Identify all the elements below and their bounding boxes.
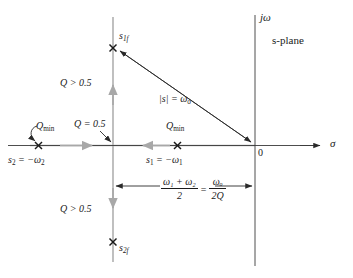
radius-magnitude-subscript: o	[187, 98, 191, 106]
radius-magnitude-label: |s| = ωo	[159, 94, 191, 106]
q-greater-upper-label: Q > 0.5	[60, 78, 91, 88]
half-bandwidth-equals: =	[201, 184, 207, 195]
s-plane-label: s-plane	[272, 35, 304, 46]
q-min-right-label: Qmin	[166, 121, 184, 133]
s-plane-root-locus-figure: s-plane jω σ 0 s1f s2f Q > 0.5 Q > 0.5 Q…	[0, 0, 353, 278]
half-bandwidth-fraction-right: ωₒ 2Q	[209, 176, 225, 201]
half-bandwidth-numerator-2: ωₒ	[209, 176, 225, 189]
pole-label-s2f-subscript: 2f	[123, 247, 129, 255]
origin-label: 0	[258, 148, 263, 158]
half-bandwidth-expression: ω₁ + ω₂ 2 = ωₒ 2Q	[161, 177, 226, 202]
pole-label-s1f-subscript: 1f	[123, 35, 129, 43]
half-bandwidth-denominator-2: 2Q	[209, 189, 225, 201]
real-axis-label: σ	[330, 138, 335, 149]
pole-label-s2: s2 = −ω2	[8, 155, 45, 167]
pole-label-s2-rest: = −ω	[16, 154, 42, 165]
half-bandwidth-numerator: ω₁ + ω₂	[161, 176, 198, 189]
q-greater-lower-label: Q > 0.5	[60, 204, 91, 214]
half-bandwidth-denominator: 2	[161, 189, 198, 201]
q-min-left-label: Qmin	[36, 121, 54, 133]
pole-label-s1: s1 = −ω1	[146, 155, 183, 167]
q-min-left-subscript: min	[43, 125, 54, 133]
q-equal-label: Q = 0.5	[74, 119, 105, 129]
pole-label-s2-rest-subscript: 2	[41, 159, 45, 167]
pole-label-s1-rest: = −ω	[154, 154, 180, 165]
imag-axis-label: jω	[260, 12, 271, 23]
pole-label-s2f: s2f	[119, 243, 129, 255]
half-bandwidth-fraction-left: ω₁ + ω₂ 2	[161, 176, 198, 201]
q-equal-leader-line	[100, 131, 111, 142]
pole-label-s1f: s1f	[119, 31, 129, 43]
pole-label-s1-rest-subscript: 1	[179, 159, 183, 167]
q-min-right-subscript: min	[173, 125, 184, 133]
radius-magnitude-base: |s| = ω	[159, 93, 187, 104]
